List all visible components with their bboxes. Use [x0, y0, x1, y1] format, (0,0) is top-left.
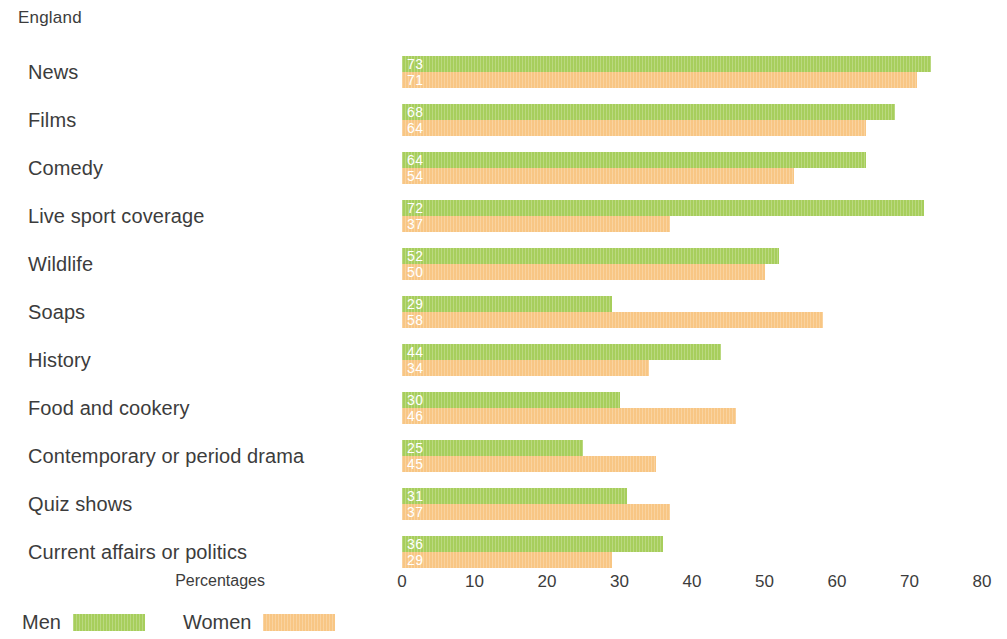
bar-value-label: 64	[407, 152, 424, 168]
bar-pair: 4434	[402, 344, 1002, 378]
legend-label: Men	[22, 611, 61, 634]
chart-category-group: Quiz shows3137	[0, 480, 1007, 528]
bar-men: 64	[402, 152, 866, 168]
bar-value-label: 64	[407, 120, 424, 136]
bar-pair: 3046	[402, 392, 1002, 426]
bar-men: 44	[402, 344, 721, 360]
bar-women: 34	[402, 360, 649, 376]
chart-title: England	[18, 8, 82, 28]
legend-swatch	[73, 614, 145, 631]
chart-category-group: Current affairs or politics3629	[0, 528, 1007, 576]
bar-value-label: 29	[407, 296, 424, 312]
bar-pair: 2958	[402, 296, 1002, 330]
bar-pair: 7371	[402, 56, 1002, 90]
x-axis-tick-label: 40	[683, 572, 702, 592]
chart-category-group: Wildlife5250	[0, 240, 1007, 288]
bar-men: 30	[402, 392, 620, 408]
bar-women: 29	[402, 552, 612, 568]
bar-men: 73	[402, 56, 931, 72]
chart-category-group: Films6864	[0, 96, 1007, 144]
bar-men: 25	[402, 440, 583, 456]
bar-value-label: 45	[407, 456, 424, 472]
bar-pair: 5250	[402, 248, 1002, 282]
bar-pair: 3137	[402, 488, 1002, 522]
bar-value-label: 50	[407, 264, 424, 280]
bar-value-label: 54	[407, 168, 424, 184]
bar-value-label: 31	[407, 488, 424, 504]
bar-women: 50	[402, 264, 765, 280]
legend-swatch	[263, 614, 335, 631]
bar-value-label: 30	[407, 392, 424, 408]
bar-value-label: 72	[407, 200, 424, 216]
bar-value-label: 73	[407, 56, 424, 72]
bar-value-label: 36	[407, 536, 424, 552]
chart-category-group: Comedy6454	[0, 144, 1007, 192]
bar-women: 64	[402, 120, 866, 136]
legend-entry: Men	[22, 611, 145, 634]
bar-value-label: 68	[407, 104, 424, 120]
bar-value-label: 58	[407, 312, 424, 328]
x-axis-tick-label: 50	[755, 572, 774, 592]
bar-men: 68	[402, 104, 895, 120]
bar-pair: 6864	[402, 104, 1002, 138]
bar-women: 46	[402, 408, 736, 424]
category-label: Current affairs or politics	[28, 528, 247, 576]
bar-value-label: 37	[407, 504, 424, 520]
chart-category-group: News7371	[0, 48, 1007, 96]
category-label: News	[28, 48, 78, 96]
category-label: History	[28, 336, 91, 384]
bar-women: 58	[402, 312, 823, 328]
bar-women: 45	[402, 456, 656, 472]
category-label: Comedy	[28, 144, 103, 192]
category-label: Soaps	[28, 288, 85, 336]
x-axis: Percentages 01020304050607080	[0, 572, 1007, 598]
chart-category-group: Live sport coverage7237	[0, 192, 1007, 240]
bar-value-label: 25	[407, 440, 424, 456]
x-axis-label: Percentages	[175, 572, 265, 590]
bar-men: 52	[402, 248, 779, 264]
bar-value-label: 29	[407, 552, 424, 568]
category-label: Food and cookery	[28, 384, 190, 432]
bar-value-label: 44	[407, 344, 424, 360]
chart-plot-area: News7371Films6864Comedy6454Live sport co…	[0, 48, 1007, 568]
bar-men: 72	[402, 200, 924, 216]
bar-pair: 7237	[402, 200, 1002, 234]
bar-men: 36	[402, 536, 663, 552]
category-label: Films	[28, 96, 76, 144]
chart-category-group: Food and cookery3046	[0, 384, 1007, 432]
bar-value-label: 71	[407, 72, 424, 88]
chart-category-group: History4434	[0, 336, 1007, 384]
x-axis-tick-label: 0	[397, 572, 406, 592]
category-label: Live sport coverage	[28, 192, 204, 240]
category-label: Contemporary or period drama	[28, 432, 304, 480]
bar-pair: 3629	[402, 536, 1002, 570]
x-axis-tick-label: 80	[973, 572, 992, 592]
category-label: Quiz shows	[28, 480, 132, 528]
x-axis-tick-label: 70	[900, 572, 919, 592]
legend-label: Women	[183, 611, 252, 634]
bar-pair: 6454	[402, 152, 1002, 186]
x-axis-tick-label: 30	[610, 572, 629, 592]
bar-women: 37	[402, 216, 670, 232]
x-axis-tick-label: 20	[538, 572, 557, 592]
bar-men: 31	[402, 488, 627, 504]
bar-women: 37	[402, 504, 670, 520]
x-axis-tick-label: 60	[828, 572, 847, 592]
bar-men: 29	[402, 296, 612, 312]
category-label: Wildlife	[28, 240, 93, 288]
bar-women: 71	[402, 72, 917, 88]
bar-value-label: 52	[407, 248, 424, 264]
legend-entry: Women	[183, 611, 336, 634]
bar-women: 54	[402, 168, 794, 184]
chart-category-group: Contemporary or period drama2545	[0, 432, 1007, 480]
x-axis-tick-label: 10	[465, 572, 484, 592]
bar-value-label: 46	[407, 408, 424, 424]
bar-value-label: 34	[407, 360, 424, 376]
bar-value-label: 37	[407, 216, 424, 232]
chart-category-group: Soaps2958	[0, 288, 1007, 336]
chart-legend: MenWomen	[22, 608, 373, 636]
bar-pair: 2545	[402, 440, 1002, 474]
